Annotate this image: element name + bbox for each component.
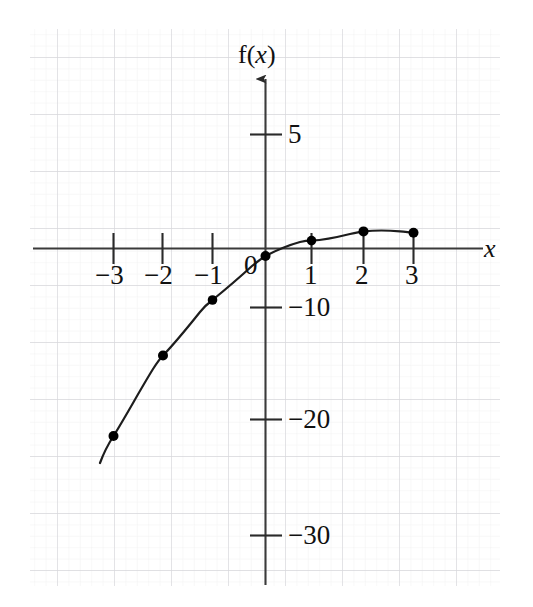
data-point-0 xyxy=(261,251,271,261)
y-axis-label-variable: x xyxy=(255,40,267,69)
graph-figure: f(x) x 0 −3 −2 −1 1 2 3 5 −10 −20 −30 xyxy=(0,0,533,607)
data-point--2 xyxy=(158,351,168,361)
x-tick-label-1: 1 xyxy=(304,262,318,289)
y-axis-label-prefix: f( xyxy=(238,40,255,69)
y-tick-label--10: −10 xyxy=(288,294,330,321)
y-tick-label--20: −20 xyxy=(288,406,330,433)
y-tick-label-5: 5 xyxy=(288,121,302,148)
y-axis-label-suffix: ) xyxy=(267,40,276,69)
x-tick-label--1: −1 xyxy=(194,262,223,289)
y-axis-label: f(x) xyxy=(238,42,276,68)
data-point-3 xyxy=(409,228,419,238)
x-tick-label--2: −2 xyxy=(144,262,173,289)
y-tick-label--30: −30 xyxy=(288,522,330,549)
plot-canvas xyxy=(0,0,533,607)
data-point-1 xyxy=(307,236,317,246)
x-tick-label--3: −3 xyxy=(95,262,124,289)
data-point-2 xyxy=(359,226,369,236)
data-point--3 xyxy=(109,431,119,441)
data-point--1 xyxy=(208,295,218,305)
origin-label: 0 xyxy=(244,252,258,279)
x-tick-label-3: 3 xyxy=(405,262,419,289)
x-tick-label-2: 2 xyxy=(355,262,369,289)
x-axis-label: x xyxy=(484,236,496,262)
